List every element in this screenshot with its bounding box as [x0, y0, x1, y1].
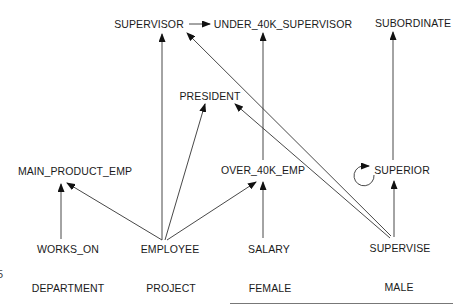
node-supervise: SUPERVISE: [370, 242, 431, 254]
node-employee: EMPLOYEE: [141, 243, 200, 255]
node-under-40k-supervisor: UNDER_40K_SUPERVISOR: [214, 18, 352, 30]
node-main-product-emp: MAIN_PRODUCT_EMP: [18, 165, 132, 177]
edge-employee-over40k: [167, 182, 256, 240]
bottom-rule-divider: [230, 303, 453, 304]
node-works-on: WORKS_ON: [37, 243, 99, 255]
node-male: MALE: [385, 281, 414, 293]
edge-employee-mainproduct: [67, 183, 162, 240]
edges-layer: [0, 0, 468, 307]
node-superior: SUPERIOR: [374, 164, 430, 176]
node-salary: SALARY: [248, 243, 290, 255]
node-project: PROJECT: [146, 282, 196, 294]
edge-superior-selfloop: [354, 166, 374, 186]
node-department: DEPARTMENT: [32, 282, 104, 294]
node-over-40k-emp: OVER_40K_EMP: [221, 164, 305, 176]
node-supervisor: SUPERVISOR: [114, 18, 184, 30]
stray-page-number: 5: [0, 268, 3, 280]
node-female: FEMALE: [249, 282, 292, 294]
node-subordinate: SUBORDINATE: [375, 17, 451, 29]
diagram-canvas: SUPERVISOR UNDER_40K_SUPERVISOR SUBORDIN…: [0, 0, 468, 307]
node-president: PRESIDENT: [180, 90, 241, 102]
edge-supervise-supervisor: [187, 33, 391, 236]
